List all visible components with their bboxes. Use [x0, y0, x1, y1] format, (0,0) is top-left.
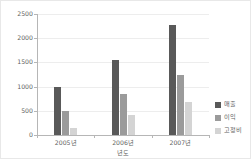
x-tick-mark [209, 135, 210, 138]
legend-item[interactable]: 고정비 [213, 125, 251, 138]
x-tick-mark [94, 135, 95, 138]
legend-swatch [214, 114, 222, 122]
bar[interactable] [185, 102, 192, 135]
bar-group [169, 14, 192, 135]
y-tick-label: 2000 [5, 35, 33, 41]
bar[interactable] [177, 75, 184, 135]
legend-swatch [214, 127, 222, 135]
x-tick-mark [152, 135, 153, 138]
y-tick-label: 1000 [5, 84, 33, 90]
x-tick-mark [37, 135, 38, 138]
y-tick-label: 2500 [5, 11, 33, 17]
bar-group [54, 14, 77, 135]
legend-swatch [214, 101, 222, 109]
bar-group [112, 14, 135, 135]
bar[interactable] [128, 115, 135, 135]
plot-area [37, 14, 209, 135]
bar[interactable] [62, 111, 69, 135]
x-tick-label: 2007년 [150, 139, 210, 146]
bar[interactable] [169, 25, 176, 135]
legend-item[interactable]: 이익 [213, 112, 251, 125]
bar[interactable] [54, 87, 61, 135]
bar[interactable] [112, 60, 119, 135]
x-axis-title: 년도 [37, 149, 209, 156]
bar-chart: 05001000150020002500 2005년2006년2007년 년도 … [0, 0, 251, 159]
y-tick-label: 500 [5, 108, 33, 114]
x-tick-label: 2006년 [93, 139, 153, 146]
y-tick-label: 0 [5, 132, 33, 138]
bar[interactable] [70, 128, 77, 135]
legend-item[interactable]: 매출 [213, 99, 251, 112]
bar[interactable] [120, 94, 127, 135]
legend: 매출이익고정비 [213, 99, 251, 138]
legend-label: 이익 [224, 113, 236, 121]
x-tick-label: 2005년 [36, 139, 96, 146]
legend-label: 고정비 [224, 126, 242, 134]
legend-label: 매출 [224, 100, 236, 108]
y-tick-label: 1500 [5, 59, 33, 65]
